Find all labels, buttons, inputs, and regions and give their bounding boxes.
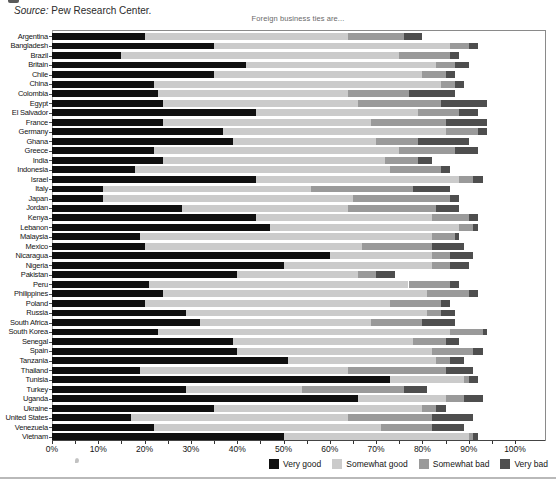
bar-segment-very-good (52, 138, 233, 145)
bar-segment-somewhat-good (200, 319, 371, 326)
bar-segment-somewhat-good (246, 62, 436, 69)
bar-segment-very-bad (441, 166, 450, 173)
bar-segment-somewhat-bad (302, 386, 404, 393)
bar-segment-very-good (52, 414, 131, 421)
bar-segment-somewhat-good (121, 52, 399, 59)
category-label: Tanzania (0, 356, 48, 365)
category-label: Argentina (0, 32, 48, 41)
category-label: Israel (0, 175, 48, 184)
bar-segment-very-good (52, 290, 163, 297)
bar-segment-very-good (52, 214, 256, 221)
bar-segment-somewhat-bad (390, 300, 441, 307)
category-label: Colombia (0, 89, 48, 98)
x-axis-tick-label: 40% (220, 444, 254, 454)
category-label: Chile (0, 70, 48, 79)
category-label: Lebanon (0, 223, 48, 232)
bar-segment-very-bad (469, 290, 478, 297)
bar-segment-very-good (52, 281, 149, 288)
bar-segment-somewhat-good (140, 367, 348, 374)
x-axis-tick-label: 30% (174, 444, 208, 454)
bottom-divider (0, 477, 556, 479)
x-axis-tick-label: 100% (498, 444, 532, 454)
legend-item: Very good (269, 459, 321, 469)
legend-label: Somewhat bad (433, 459, 490, 469)
bar-segment-somewhat-good (214, 43, 450, 50)
category-label: Nigeria (0, 261, 48, 270)
bar-segment-very-bad (404, 386, 427, 393)
bar-segment-somewhat-good (358, 395, 446, 402)
category-label: Greece (0, 146, 48, 155)
bar-segment-somewhat-good (182, 205, 349, 212)
source-label: Source: (14, 5, 48, 16)
category-label: Malaysia (0, 232, 48, 241)
legend-label: Very bad (514, 459, 548, 469)
category-label: France (0, 118, 48, 127)
bar-segment-somewhat-good (186, 310, 427, 317)
x-axis-tick-label: 90% (452, 444, 486, 454)
bar-segment-very-good (52, 43, 214, 50)
bar-segment-very-good (52, 300, 145, 307)
bar-segment-somewhat-good (103, 195, 353, 202)
bar-segment-somewhat-bad (459, 224, 473, 231)
bar-segment-somewhat-good (163, 290, 427, 297)
bar-segment-somewhat-bad (432, 233, 455, 240)
category-label: India (0, 156, 48, 165)
bar-segment-somewhat-good (103, 186, 311, 193)
bar-segment-very-bad (473, 348, 482, 355)
bar-segment-somewhat-good (145, 243, 363, 250)
bar-segment-very-good (52, 119, 163, 126)
category-label: Russia (0, 308, 48, 317)
bar-segment-somewhat-good (390, 376, 464, 383)
bar-segment-very-bad (441, 100, 487, 107)
bar-segment-very-bad (455, 147, 478, 154)
bar-segment-somewhat-bad (358, 100, 441, 107)
bar-segment-very-bad (446, 367, 474, 374)
bar-segment-very-bad (464, 395, 483, 402)
bar-segment-very-bad (446, 119, 488, 126)
bar-segment-somewhat-bad (413, 338, 445, 345)
bar-segment-very-bad (473, 224, 478, 231)
bar-segment-very-good (52, 424, 154, 431)
category-label: Senegal (0, 337, 48, 346)
bar-segment-very-good (52, 319, 200, 326)
bar-segment-somewhat-bad (432, 252, 451, 259)
bar-segment-somewhat-good (154, 424, 381, 431)
category-label: Britain (0, 60, 48, 69)
legend: Very goodSomewhat goodSomewhat badVery b… (269, 459, 548, 469)
bar-segment-very-bad (450, 281, 459, 288)
bar-segment-very-bad (432, 424, 464, 431)
bar-segment-somewhat-good (135, 166, 390, 173)
category-label: Kenya (0, 213, 48, 222)
bar-segment-very-good (52, 147, 154, 154)
category-label: Mexico (0, 242, 48, 251)
bar-segment-very-bad (432, 243, 464, 250)
bar-segment-very-bad (483, 329, 488, 336)
x-axis-tick (399, 441, 400, 444)
bar-segment-somewhat-bad (348, 90, 408, 97)
bar-segment-very-good (52, 252, 330, 259)
bar-segment-somewhat-bad (436, 62, 455, 69)
category-label: Indonesia (0, 165, 48, 174)
bar-segment-somewhat-good (163, 157, 385, 164)
bar-segment-somewhat-bad (427, 290, 469, 297)
bar-segment-very-bad (455, 81, 464, 88)
bar-segment-somewhat-good (145, 300, 390, 307)
bar-segment-somewhat-good (284, 262, 432, 269)
bar-segment-somewhat-bad (432, 262, 451, 269)
legend-swatch-icon (500, 459, 510, 469)
figure: Source: Pew Research Center. Foreign bus… (0, 0, 556, 483)
category-label: Jordan (0, 203, 48, 212)
bar-segment-very-bad (469, 43, 478, 50)
bar-segment-very-bad (413, 186, 450, 193)
x-axis-tick (214, 441, 215, 444)
bar-segment-somewhat-good (158, 329, 450, 336)
bar-segment-somewhat-bad (358, 271, 377, 278)
legend-swatch-icon (332, 459, 342, 469)
bar-segment-somewhat-bad (362, 243, 431, 250)
bar-segment-very-bad (409, 90, 455, 97)
bar-segment-somewhat-good (233, 138, 377, 145)
bar-segment-very-good (52, 367, 140, 374)
bar-segment-somewhat-bad (348, 414, 431, 421)
bar-segment-very-bad (478, 128, 487, 135)
bar-segment-somewhat-bad (311, 186, 413, 193)
